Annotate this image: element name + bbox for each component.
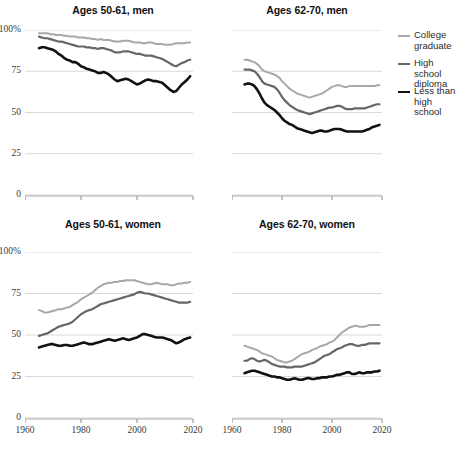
ytick-label-75: 75 [0,288,21,298]
xtick-label-2000: 2000 [315,425,349,435]
ytick-label-100: 100% [0,24,21,34]
ytick-label-25: 25 [0,371,21,381]
legend-label-less-than-high-school: Less than high school [414,86,460,118]
plot-area-1 [232,30,384,209]
panel-title-0: Ages 50-61, men [33,4,193,16]
legend-label-college-graduate: College graduate [414,30,452,51]
series-line-less-than-high-school [39,47,190,92]
xtick-label-1980: 1980 [265,425,299,435]
panel-title-2: Ages 50-61, women [33,218,193,230]
plot-area-3 [232,252,384,432]
plot-area-0 [25,30,195,209]
series-line-college-graduate [245,325,380,362]
xtick-label-1960: 1960 [8,425,42,435]
series-line-high-school-diploma [39,292,190,336]
legend-item-less-than-high-school: Less than high school [398,86,460,118]
series-line-college-graduate [39,33,190,45]
ytick-label-75: 75 [0,65,21,75]
ytick-label-50: 50 [0,329,21,339]
legend-swatch-icon-less-than-high-school [398,91,410,93]
legend-swatch-icon-college-graduate [398,35,410,37]
ytick-label-0: 0 [0,189,21,199]
plot-area-2 [25,252,195,432]
series-line-high-school-diploma [245,343,380,367]
series-line-high-school-diploma [245,70,380,115]
xtick-label-1960: 1960 [215,425,249,435]
xtick-label-1980: 1980 [64,425,98,435]
xtick-label-2020: 2020 [176,425,210,435]
series-line-less-than-high-school [245,371,380,380]
ytick-label-50: 50 [0,107,21,117]
panel-title-3: Ages 62-70, women [227,218,387,230]
xtick-label-2020: 2020 [365,425,399,435]
series-line-college-graduate [245,60,380,98]
series-line-less-than-high-school [39,334,190,347]
legend-swatch-icon-high-school-diploma [398,63,410,65]
series-line-college-graduate [39,280,190,312]
xtick-label-2000: 2000 [120,425,154,435]
panel-title-1: Ages 62-70, men [227,4,387,16]
ytick-label-100: 100% [0,246,21,256]
figure-panel-grid: Ages 50-61, men0255075100%Ages 62-70, me… [0,0,460,454]
ytick-label-0: 0 [0,412,21,422]
legend-item-college-graduate: College graduate [398,30,452,51]
ytick-label-25: 25 [0,148,21,158]
